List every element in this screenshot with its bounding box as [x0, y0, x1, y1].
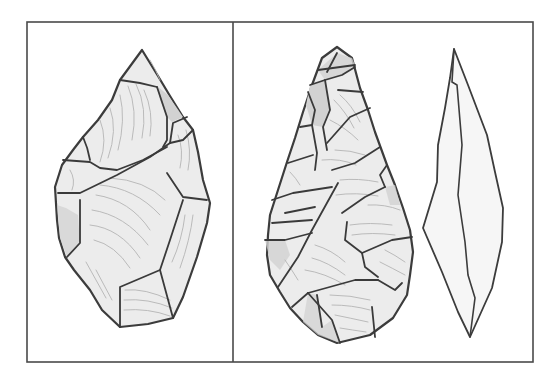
left-axe-outline	[55, 50, 210, 327]
hand-axe-side-profile	[423, 49, 503, 337]
hand-axe-figure: Hand axe, face view (coarse flaking) Han…	[0, 0, 557, 380]
middle-hand-axe	[265, 47, 413, 343]
side-profile-outline	[423, 49, 503, 337]
left-hand-axe	[55, 50, 210, 327]
illustration-canvas	[0, 0, 557, 380]
